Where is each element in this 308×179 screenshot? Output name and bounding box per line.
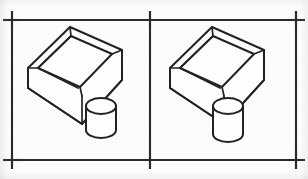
reg-mark-top-right <box>287 11 305 29</box>
cylinder-top-ellipse <box>213 98 243 114</box>
reg-mark-bottom-left <box>3 151 21 169</box>
cylinder-top-ellipse <box>86 98 116 114</box>
right-panel-figure <box>170 27 264 142</box>
left-panel-figure <box>28 27 122 138</box>
drawing-canvas <box>0 0 308 179</box>
box-rim-back-corner <box>70 27 71 36</box>
box-rim-back-corner <box>212 27 213 36</box>
reg-mark-bottom-right <box>287 151 305 169</box>
drawing-sheet <box>0 0 308 179</box>
reg-mark-top-left <box>3 11 21 29</box>
